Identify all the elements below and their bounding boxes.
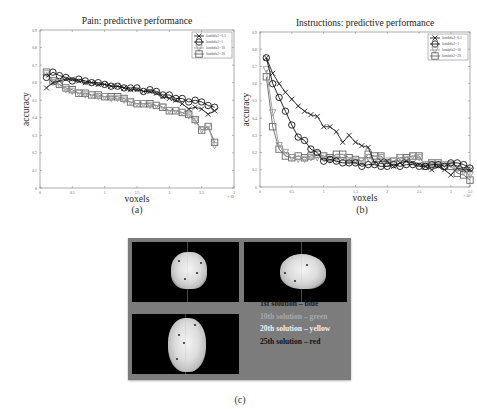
brain-view-axial xyxy=(132,314,239,374)
legend-entry: lambda2=0.1 xyxy=(206,34,226,38)
activation-dot xyxy=(306,264,308,266)
y-tick-label: 0.5 xyxy=(252,99,257,103)
chart-title: Instructions: predictive performance xyxy=(296,18,434,28)
activation-dot xyxy=(294,280,296,282)
legend-entry: lambda2=20 xyxy=(442,54,461,58)
legend-10th-solution: 10th solution – green xyxy=(260,311,350,324)
brain-image-coronal xyxy=(171,252,207,289)
y-tick-label: 0.1 xyxy=(252,168,257,172)
legend-20th-solution: 20th solution – yellow xyxy=(260,323,350,336)
activation-dot xyxy=(194,324,196,326)
x-tick-label: 1 xyxy=(323,190,325,194)
x-tick-label: 0.5 xyxy=(70,191,75,195)
y-tick-label: 0.8 xyxy=(32,46,37,50)
legend-entry: lambda2=10 xyxy=(442,48,461,52)
y-tick-label: 0.1 xyxy=(32,169,37,173)
y-tick-label: 0 xyxy=(35,187,37,191)
caption-a: (a) xyxy=(117,204,157,215)
x-tick-label: 3 xyxy=(450,190,452,194)
y-tick-label: 0.7 xyxy=(252,65,257,69)
y-tick-label: 0 xyxy=(255,186,257,190)
y-tick-label: 0.2 xyxy=(252,151,257,155)
chart-title: Pain: predictive performance xyxy=(82,16,192,26)
x-multiplier: × 10⁴ xyxy=(227,195,235,199)
y-tick-label: 0.9 xyxy=(252,31,257,35)
x-axis-label: voxels xyxy=(125,194,150,204)
activation-dot xyxy=(200,262,202,264)
legend-entry: lambda2=1 xyxy=(206,40,223,44)
crosshair-vertical xyxy=(301,242,302,302)
x-tick-label: 1 xyxy=(104,191,106,195)
legend-entry: lambda2=20 xyxy=(206,52,225,56)
y-tick-label: 0.9 xyxy=(32,29,37,33)
activation-dot xyxy=(183,342,185,344)
activation-dot xyxy=(184,278,186,280)
activation-dot xyxy=(178,334,180,336)
y-tick-label: 0.2 xyxy=(32,151,37,155)
x-tick-label: 0 xyxy=(259,190,261,194)
chart-legend: lambda2=0.1lambda2=1lambda2=10lambda2=20 xyxy=(428,34,468,60)
x-axis-label: voxels xyxy=(353,193,378,203)
brain-solution-legend: 1st solution – blue 10th solution – gree… xyxy=(260,298,350,348)
x-tick-label: 2.5 xyxy=(417,190,422,194)
x-multiplier: × 10⁴ xyxy=(463,194,471,198)
legend-25th-solution: 25th solution – red xyxy=(260,336,350,349)
y-tick-label: 0.4 xyxy=(32,116,37,120)
y-tick-label: 0.6 xyxy=(32,81,37,85)
chart-instructions-predictive-performance: Instructions: predictive performance00.1… xyxy=(240,0,477,220)
caption-b: (b) xyxy=(342,204,382,215)
legend-entry: lambda2=10 xyxy=(206,46,225,50)
brain-solutions-panel: 1st solution – blue 10th solution – gree… xyxy=(128,238,351,380)
activation-dot xyxy=(176,358,178,360)
chart-pain-predictive-performance: Pain: predictive performance00.10.20.30.… xyxy=(0,0,240,220)
brain-image-sagittal xyxy=(280,254,326,289)
crosshair-vertical xyxy=(187,242,188,302)
y-tick-label: 0.6 xyxy=(252,82,257,86)
x-tick-label: 2 xyxy=(168,191,170,195)
caption-c: (c) xyxy=(220,394,260,405)
y-tick-label: 0.4 xyxy=(252,117,257,121)
x-tick-label: 2.5 xyxy=(199,191,204,195)
chart-legend: lambda2=0.1lambda2=1lambda2=10lambda2=20 xyxy=(192,32,232,58)
activation-dot xyxy=(284,272,286,274)
x-tick-label: 0.5 xyxy=(289,190,294,194)
legend-entry: lambda2=0.1 xyxy=(442,36,462,40)
x-tick-label: 0 xyxy=(39,191,41,195)
brain-view-coronal xyxy=(132,242,239,302)
y-tick-label: 0.3 xyxy=(32,134,37,138)
y-tick-label: 0.8 xyxy=(252,48,257,52)
brain-image-axial xyxy=(168,318,206,372)
legend-1st-solution: 1st solution – blue xyxy=(260,298,350,311)
y-tick-label: 0.5 xyxy=(32,99,37,103)
y-tick-label: 0.7 xyxy=(32,64,37,68)
y-axis-label: accuracy xyxy=(21,92,31,126)
legend-entry: lambda2=1 xyxy=(442,42,459,46)
y-tick-label: 0.3 xyxy=(252,134,257,138)
x-tick-label: 2 xyxy=(386,190,388,194)
activation-dot xyxy=(178,260,180,262)
crosshair-vertical xyxy=(185,314,186,374)
activation-dot xyxy=(196,272,198,274)
brain-view-sagittal xyxy=(244,242,347,302)
y-axis-label: accuracy xyxy=(241,92,251,126)
